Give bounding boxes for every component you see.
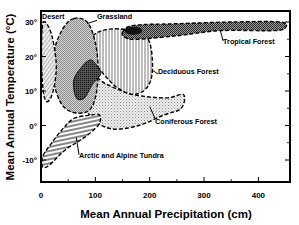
y-tick-label: -10°: [22, 156, 37, 165]
x-axis-ticks: 0100200300400: [39, 177, 266, 200]
leader-line-grassland: [87, 20, 97, 23]
region-tropical-forest-dense: [124, 27, 142, 35]
label-deciduous-forest: Deciduous Forest: [158, 67, 219, 76]
label-desert: Desert: [42, 12, 65, 21]
region-desert: [41, 22, 56, 102]
x-tick-label: 100: [89, 191, 103, 200]
x-tick-label: 400: [252, 191, 266, 200]
biome-chart: DesertGrasslandTropical ForestDeciduous …: [0, 0, 299, 225]
leader-line-tropical-forest: [220, 31, 223, 41]
x-tick-label: 300: [197, 191, 211, 200]
y-axis-title: Mean Annual Temperature (°C): [4, 13, 16, 180]
y-tick-label: 20°: [25, 53, 37, 62]
x-tick-label: 0: [39, 191, 44, 200]
label-grassland: Grassland: [97, 12, 132, 21]
y-tick-label: 0°: [29, 122, 37, 131]
label-arctic-and-alpine-tundra: Arctic and Alpine Tundra: [79, 151, 165, 160]
label-coniferous-forest: Coniferous Forest: [155, 117, 218, 126]
x-axis-title: Mean Annual Precipitation (cm): [80, 208, 252, 220]
x-tick-label: 200: [143, 191, 157, 200]
y-tick-label: 30°: [25, 18, 37, 27]
y-tick-label: 10°: [25, 87, 37, 96]
label-tropical-forest: Tropical Forest: [223, 37, 275, 46]
